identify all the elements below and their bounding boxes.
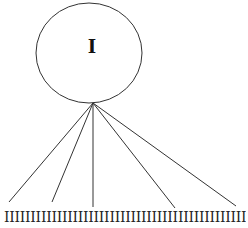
tree-diagram: I IIIIIIIIIIIIIIIIIIIIIIIIIIIIIIIIIIIIII… [0, 0, 248, 228]
edge-5 [93, 103, 236, 206]
edge-1 [9, 103, 93, 202]
diagram-canvas [0, 0, 248, 228]
root-node-label: I [82, 36, 102, 57]
edge-4 [93, 103, 175, 208]
edge-2 [52, 103, 93, 202]
edges-group [9, 103, 236, 208]
leaf-row: IIIIIIIIIIIIIIIIIIIIIIIIIIIIIIIIIIIIIIII… [4, 209, 246, 225]
